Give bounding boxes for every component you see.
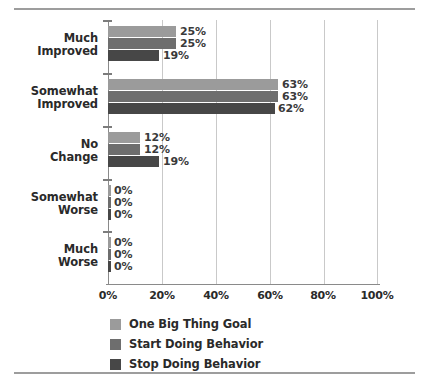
bar-much-worse-stop-doing-behavior [108, 261, 111, 272]
y-axis-tick-4 [103, 231, 112, 233]
bar-value-much-worse-s2: 0% [114, 260, 132, 273]
category-label-somewhat-improved: Somewhat Improved [0, 85, 98, 111]
chart-legend: One Big Thing Goal Start Doing Behavior … [110, 314, 263, 374]
legend-item-one-big-thing-goal[interactable]: One Big Thing Goal [110, 314, 263, 334]
bar-somewhat-improved-start-doing-behavior [108, 91, 278, 102]
bar-value-somewhat-improved-s2: 62% [278, 102, 304, 115]
gridline-100 [377, 20, 378, 284]
legend-item-start-doing-behavior[interactable]: Start Doing Behavior [110, 334, 263, 354]
bar-much-worse-start-doing-behavior [108, 249, 111, 260]
bar-much-improved-stop-doing-behavior [108, 50, 159, 61]
bar-somewhat-worse-one-big-thing-goal [108, 185, 111, 196]
gridline-40 [216, 20, 217, 284]
bar-somewhat-worse-stop-doing-behavior [108, 209, 111, 220]
bar-much-improved-start-doing-behavior [108, 38, 176, 49]
bar-value-much-improved-s2: 19% [163, 49, 189, 62]
bar-no-change-one-big-thing-goal [108, 132, 140, 143]
y-axis-tick-0 [103, 20, 112, 22]
bar-somewhat-improved-stop-doing-behavior [108, 103, 275, 114]
bar-value-somewhat-worse-s2: 0% [114, 208, 132, 221]
y-axis-tick-3 [103, 179, 112, 181]
category-label-line2: Worse [0, 256, 98, 269]
top-divider-rule [14, 8, 415, 10]
x-axis-label-60: 60% [250, 289, 290, 302]
category-label-line2: Improved [0, 98, 98, 111]
x-axis-label-40: 40% [196, 289, 236, 302]
category-label-much-worse: Much Worse [0, 243, 98, 269]
category-label-line2: Change [0, 151, 98, 164]
category-label-much-improved: Much Improved [0, 32, 98, 58]
category-label-line2: Worse [0, 204, 98, 217]
gridline-80 [324, 20, 325, 284]
bar-much-worse-one-big-thing-goal [108, 237, 111, 248]
legend-label-series2: Stop Doing Behavior [129, 357, 260, 371]
bar-no-change-stop-doing-behavior [108, 156, 159, 167]
legend-label-series1: Start Doing Behavior [129, 337, 263, 351]
bar-much-improved-one-big-thing-goal [108, 26, 176, 37]
y-axis-tick-1 [103, 73, 112, 75]
y-axis-tick-2 [103, 126, 112, 128]
category-label-line2: Improved [0, 45, 98, 58]
bar-somewhat-improved-one-big-thing-goal [108, 79, 278, 90]
x-axis-label-100: 100% [357, 289, 397, 302]
category-label-somewhat-worse: Somewhat Worse [0, 191, 98, 217]
bar-no-change-start-doing-behavior [108, 144, 140, 155]
legend-swatch-icon-series2 [110, 359, 121, 370]
gridline-60 [270, 20, 271, 284]
bar-chart: Much Improved 25% 25% 19% Somewhat Impro… [0, 0, 429, 385]
x-axis-label-0: 0% [88, 289, 128, 302]
bar-value-no-change-s2: 19% [163, 155, 189, 168]
legend-label-series0: One Big Thing Goal [129, 317, 251, 331]
x-axis-line [106, 284, 380, 285]
legend-swatch-icon-series1 [110, 339, 121, 350]
x-axis-label-80: 80% [303, 289, 343, 302]
legend-item-stop-doing-behavior[interactable]: Stop Doing Behavior [110, 354, 263, 374]
x-axis-label-20: 20% [142, 289, 182, 302]
bar-somewhat-worse-start-doing-behavior [108, 197, 111, 208]
category-label-no-change: No Change [0, 138, 98, 164]
legend-swatch-icon-series0 [110, 319, 121, 330]
